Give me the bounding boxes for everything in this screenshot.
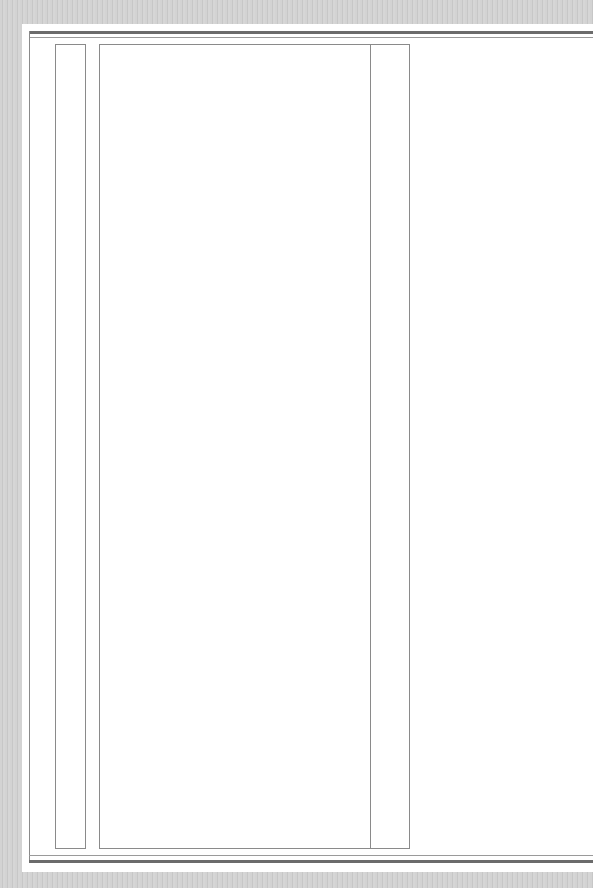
left-border-line xyxy=(29,31,30,861)
top-thin-rule xyxy=(29,37,593,38)
left-narrow-column xyxy=(55,44,86,849)
bottom-thin-rule xyxy=(29,855,593,856)
main-content-box xyxy=(99,44,410,849)
bottom-thick-rule xyxy=(29,860,593,863)
main-box-right-divider xyxy=(370,44,371,849)
top-thick-rule xyxy=(29,31,593,34)
